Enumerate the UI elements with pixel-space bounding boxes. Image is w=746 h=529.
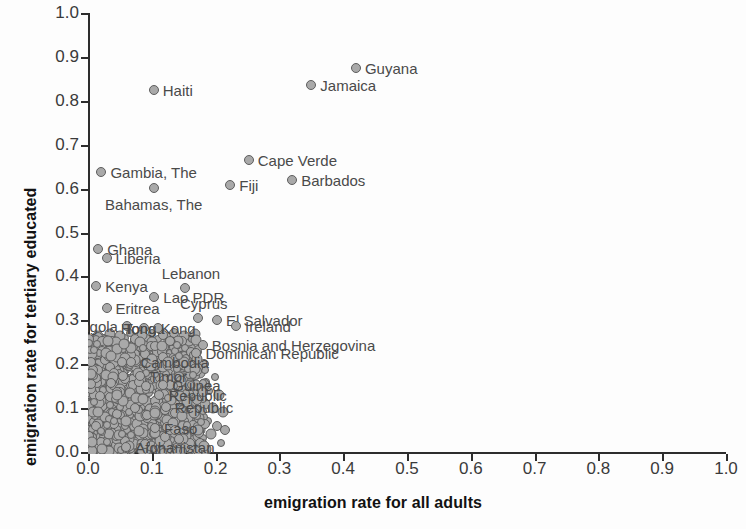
point-label: Guyana (363, 59, 418, 76)
x-tick-label: 0.8 (587, 459, 611, 479)
data-point-jamaica (306, 80, 316, 90)
data-point-kenya (91, 281, 101, 291)
plot-area: GuyanaJamaicaHaitiCape VerdeGambia, TheB… (88, 8, 726, 454)
y-tickmark (81, 276, 88, 278)
data-point-haiti (149, 85, 159, 95)
point-label: Lebanon (162, 265, 220, 282)
cluster-point (90, 398, 98, 406)
cluster-point (106, 378, 116, 388)
y-tickmark (81, 452, 88, 454)
cluster-point (130, 403, 140, 413)
point-label: Republic (173, 398, 233, 415)
data-point-gambia-the (96, 167, 106, 177)
cluster-point (217, 439, 225, 447)
y-tickmark (81, 57, 88, 59)
x-tick-label: 0.1 (140, 459, 164, 479)
data-point-afghanistan (121, 442, 131, 452)
data-point-fiji (225, 180, 235, 190)
x-tick-label: 0.4 (331, 459, 355, 479)
y-tick-label: 1.0 (33, 3, 79, 23)
data-point-bahamas-the (149, 183, 159, 193)
cluster-point (197, 418, 205, 426)
cluster-point (106, 350, 117, 361)
cluster-point (149, 407, 160, 418)
x-axis-title: emigration rate for all adults (0, 494, 746, 512)
point-label: Eritrea (114, 300, 160, 317)
cluster-point (93, 407, 104, 418)
point-label: Fiji (237, 177, 258, 194)
point-label: Hong Kong (121, 320, 196, 337)
x-tick-label: 0.6 (459, 459, 483, 479)
point-label: Cape Verde (256, 152, 337, 169)
cluster-point (120, 416, 131, 427)
data-point-liberia (102, 253, 112, 263)
x-tick-label: 0.7 (523, 459, 547, 479)
data-point-el-salvador (212, 315, 222, 325)
y-tickmark (81, 145, 88, 147)
data-point-cape-verde (244, 155, 254, 165)
scatter-chart-figure: 0.00.10.20.30.40.50.60.70.80.91.00.00.10… (0, 0, 746, 529)
y-tickmark (81, 320, 88, 322)
x-tick-label: 1.0 (714, 459, 738, 479)
point-label: Haiti (161, 81, 193, 98)
cluster-point (118, 339, 129, 350)
cluster-point (220, 425, 230, 435)
y-tickmark (81, 408, 88, 410)
data-point-barbados (287, 175, 297, 185)
cluster-point (97, 427, 105, 435)
x-tick-label: 0.0 (76, 459, 100, 479)
y-tick-label: 0.9 (33, 47, 79, 67)
y-tick-label: 0.8 (33, 91, 79, 111)
x-tick-label: 0.9 (650, 459, 674, 479)
data-point-cambodia (126, 357, 136, 367)
point-label: Jamaica (318, 77, 376, 94)
point-label: Cyprus (180, 295, 228, 312)
point-label: Kenya (103, 278, 148, 295)
point-label: Gambia, The (108, 164, 196, 181)
point-label: Faso (162, 419, 197, 436)
data-point-guyana (351, 63, 361, 73)
point-label: Afghanistan (133, 438, 214, 454)
point-label: Dominican Republic (203, 345, 338, 362)
y-tickmark (81, 101, 88, 103)
cluster-point (111, 389, 122, 400)
y-tickmark (81, 13, 88, 15)
data-point-ghana (93, 244, 103, 254)
point-label: Angola (88, 318, 121, 335)
x-tick-label: 0.3 (268, 459, 292, 479)
cluster-point (106, 401, 114, 409)
point-label: Liberia (114, 249, 161, 266)
cluster-point (110, 417, 118, 425)
cluster-point (138, 394, 149, 405)
data-point-ireland (231, 321, 241, 331)
y-axis-title: emigration rate for tertiary educated (22, 188, 40, 466)
cluster-point (118, 371, 128, 381)
y-tickmark (81, 233, 88, 235)
x-tick-label: 0.5 (395, 459, 419, 479)
y-tick-label: 0.7 (33, 135, 79, 155)
cluster-point (139, 344, 147, 352)
y-tickmark (81, 364, 88, 366)
x-tick-label: 0.2 (204, 459, 228, 479)
point-label: Ireland (243, 317, 291, 334)
data-point-faso (150, 423, 160, 433)
point-label: Barbados (299, 171, 365, 188)
data-point-republic (154, 390, 164, 400)
cluster-point (90, 346, 98, 354)
data-point-timor (135, 371, 145, 381)
cluster-point (118, 430, 126, 438)
data-point-eritrea (102, 303, 112, 313)
cluster-point (133, 426, 144, 437)
data-point-republic (161, 402, 171, 412)
point-label: Bahamas, The (105, 195, 202, 212)
cluster-point (173, 341, 181, 349)
y-tickmark (81, 189, 88, 191)
cluster-point (97, 443, 108, 454)
